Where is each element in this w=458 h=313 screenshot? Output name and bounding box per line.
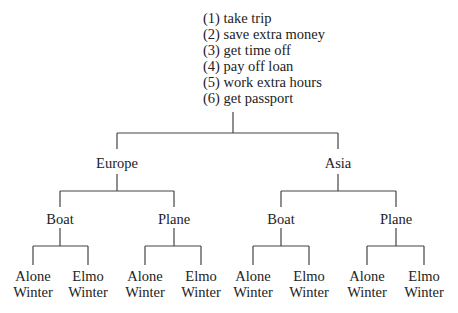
leaf-line1: Elmo (68, 268, 108, 284)
node-asia-plane: Plane (380, 211, 412, 227)
leaf-line2: Winter (347, 284, 387, 300)
leaf-line1: Elmo (289, 268, 329, 284)
leaf-node: Elmo Winter (181, 268, 221, 300)
leaf-line2: Winter (68, 284, 108, 300)
node-asia-boat: Boat (267, 211, 294, 227)
leaf-node: Elmo Winter (289, 268, 329, 300)
goal-item: (4) pay off loan (203, 58, 325, 74)
leaf-node: Alone Winter (13, 268, 53, 300)
leaf-line2: Winter (404, 284, 444, 300)
leaf-node: Alone Winter (125, 268, 165, 300)
node-asia: Asia (325, 155, 352, 171)
goal-item: (3) get time off (203, 42, 325, 58)
leaf-line1: Alone (233, 268, 273, 284)
leaf-line2: Winter (233, 284, 273, 300)
leaf-line1: Alone (13, 268, 53, 284)
goal-item: (6) get passport (203, 90, 325, 106)
root-goal-list: (1) take trip (2) save extra money (3) g… (203, 10, 325, 106)
decision-tree-diagram: (1) take trip (2) save extra money (3) g… (0, 0, 458, 313)
leaf-line1: Elmo (181, 268, 221, 284)
leaf-node: Elmo Winter (68, 268, 108, 300)
leaf-line1: Alone (347, 268, 387, 284)
goal-item: (1) take trip (203, 10, 325, 26)
leaf-line2: Winter (13, 284, 53, 300)
leaf-line1: Elmo (404, 268, 444, 284)
leaf-line2: Winter (181, 284, 221, 300)
leaf-line1: Alone (125, 268, 165, 284)
leaf-line2: Winter (125, 284, 165, 300)
node-europe-plane: Plane (158, 211, 190, 227)
leaf-node: Alone Winter (233, 268, 273, 300)
leaf-node: Elmo Winter (404, 268, 444, 300)
node-europe-boat: Boat (46, 211, 73, 227)
node-europe: Europe (96, 155, 138, 171)
goal-item: (5) work extra hours (203, 74, 325, 90)
leaf-node: Alone Winter (347, 268, 387, 300)
goal-item: (2) save extra money (203, 26, 325, 42)
leaf-line2: Winter (289, 284, 329, 300)
